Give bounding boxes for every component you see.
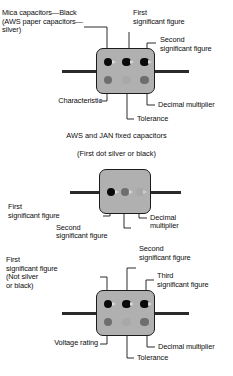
- capacitor-3-dot-top-1: [104, 300, 112, 308]
- label-tolerance-3: Tolerance: [137, 354, 207, 363]
- capacitor-3-dot-bottom-1: [104, 318, 112, 326]
- label-second-significant-figure-3: Second significant figure: [139, 245, 233, 262]
- caption-1-line-1: AWS and JAN fixed capacitors: [0, 131, 233, 140]
- caption-1-line-2: (First dot silver or black): [0, 149, 233, 158]
- label-decimal-multiplier-2: Decimal multiplier: [150, 214, 220, 231]
- capacitor-1-lead-right: [153, 70, 189, 73]
- capacitor-1-body: [96, 48, 155, 94]
- capacitor-3-dot-bottom-3: [140, 318, 148, 326]
- capacitor-3-dot-top-2: [122, 300, 130, 308]
- capacitor-2-dot-1: [107, 188, 115, 196]
- capacitor-2-dot-3: [136, 188, 144, 196]
- label-second-significant-figure-2: Second significant figure: [56, 224, 151, 241]
- capacitor-3-dot-bottom-2: [122, 318, 130, 326]
- label-third-significant-figure-3: Third significant figure: [157, 272, 233, 289]
- label-voltage-rating: Voltage rating: [26, 339, 98, 348]
- label-tolerance-1: Tolerance: [137, 115, 207, 124]
- label-mica-capacitors: Mica capacitors—Black (AWS paper capacit…: [2, 9, 92, 35]
- capacitor-1-lead-left: [62, 70, 98, 73]
- label-decimal-multiplier-1: Decimal multiplier: [158, 101, 233, 110]
- label-first-significant-figure-1: First significant figure: [133, 9, 228, 26]
- capacitor-2-dot-2: [121, 188, 129, 196]
- capacitor-3-lead-left: [62, 312, 98, 315]
- capacitor-1-dot-bottom-2: [122, 76, 130, 84]
- capacitor-3-dot-top-3: [140, 300, 148, 308]
- capacitor-3-body: [96, 290, 155, 336]
- label-second-significant-figure-1: Second significant figure: [160, 36, 233, 53]
- label-characteristic: Characteristic: [30, 97, 102, 106]
- capacitor-1-dot-top-1: [104, 58, 112, 66]
- capacitor-3-lead-right: [153, 312, 189, 315]
- capacitor-1-dot-bottom-1: [104, 76, 112, 84]
- capacitor-color-code-figure: Mica capacitors—Black (AWS paper capacit…: [0, 0, 233, 376]
- capacitor-2-lead-right: [148, 191, 181, 194]
- capacitor-1-dot-bottom-3: [140, 76, 148, 84]
- label-decimal-multiplier-3: Decimal multiplier: [158, 343, 233, 352]
- capacitor-2-body: [99, 169, 151, 214]
- label-first-significant-figure-3: First significant figure (Not silver or …: [6, 256, 99, 290]
- capacitor-1-dot-top-2: [122, 58, 130, 66]
- capacitor-1-dot-top-3: [140, 58, 148, 66]
- label-first-significant-figure-2: First significant figure: [8, 203, 101, 220]
